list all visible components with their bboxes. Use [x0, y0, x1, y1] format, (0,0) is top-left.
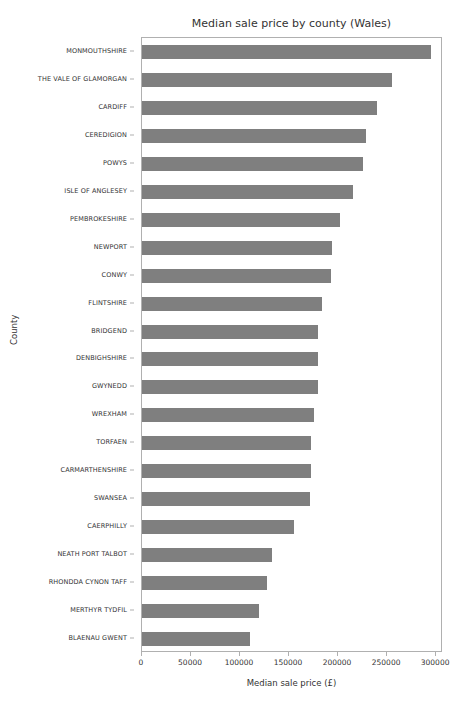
bar[interactable] [142, 576, 267, 590]
y-axis-tick-mark [130, 330, 134, 331]
bar-row[interactable] [142, 269, 441, 283]
y-axis-tick-label: GWYNEDD [92, 382, 127, 390]
bar-row[interactable] [142, 604, 441, 618]
y-axis-tick-mark [130, 498, 134, 499]
x-axis-tick-label: 50000 [178, 658, 202, 667]
y-axis-tick-mark [130, 106, 134, 107]
y-axis-tick-mark [130, 50, 134, 51]
bar-row[interactable] [142, 520, 441, 534]
bar-row[interactable] [142, 45, 441, 59]
bar[interactable] [142, 129, 366, 143]
x-axis-tick-mark [288, 652, 289, 656]
x-axis-tick-mark [386, 652, 387, 656]
bar-row[interactable] [142, 464, 441, 478]
bar[interactable] [142, 325, 318, 339]
x-axis-tick-label: 150000 [274, 658, 303, 667]
y-axis-tick-label: WREXHAM [92, 410, 127, 418]
bar-row[interactable] [142, 241, 441, 255]
bar[interactable] [142, 408, 314, 422]
bar[interactable] [142, 464, 311, 478]
bar-row[interactable] [142, 380, 441, 394]
y-axis-tick-mark [130, 78, 134, 79]
bar[interactable] [142, 548, 272, 562]
bar-row[interactable] [142, 213, 441, 227]
plot-area [141, 37, 442, 652]
bar[interactable] [142, 45, 431, 59]
bar-row[interactable] [142, 548, 441, 562]
y-axis-tick-mark [130, 470, 134, 471]
y-axis-tick-mark [130, 190, 134, 191]
x-axis-tick-mark [337, 652, 338, 656]
bar-row[interactable] [142, 408, 441, 422]
bar-row[interactable] [142, 352, 441, 366]
x-axis-tick-label: 250000 [372, 658, 401, 667]
bar-row[interactable] [142, 325, 441, 339]
bar[interactable] [142, 213, 340, 227]
bar-row[interactable] [142, 297, 441, 311]
y-axis-tick-label: CONWY [102, 271, 127, 279]
y-axis-tick-label: DENBIGHSHIRE [76, 354, 127, 362]
y-axis-tick-label: ISLE OF ANGLESEY [64, 187, 127, 195]
bar[interactable] [142, 241, 332, 255]
y-axis-tick-mark [130, 358, 134, 359]
y-axis-tick-mark [130, 610, 134, 611]
bar[interactable] [142, 157, 363, 171]
bar[interactable] [142, 436, 311, 450]
bar-row[interactable] [142, 185, 441, 199]
y-axis-tick-label: CEREDIGION [85, 131, 127, 139]
bar[interactable] [142, 269, 331, 283]
y-axis-tick-label: MONMOUTHSHIRE [66, 47, 127, 55]
y-axis-tick-mark [130, 442, 134, 443]
bar[interactable] [142, 73, 392, 87]
bar[interactable] [142, 380, 318, 394]
bar[interactable] [142, 101, 377, 115]
bar-row[interactable] [142, 73, 441, 87]
bar-row[interactable] [142, 492, 441, 506]
y-axis-tick-label: TORFAEN [96, 438, 127, 446]
x-axis-title: Median sale price (£) [141, 678, 442, 688]
y-axis-tick-mark [130, 582, 134, 583]
y-axis-labels: MONMOUTHSHIRETHE VALE OF GLAMORGANCARDIF… [0, 37, 134, 652]
bar-row[interactable] [142, 101, 441, 115]
x-axis-tick-mark [435, 652, 436, 656]
bar[interactable] [142, 185, 353, 199]
bar[interactable] [142, 297, 322, 311]
y-axis-tick-label: MERTHYR TYDFIL [70, 606, 127, 614]
y-axis-tick-label: BLAENAU GWENT [68, 634, 127, 642]
y-axis-tick-mark [130, 274, 134, 275]
y-axis-tick-mark [130, 162, 134, 163]
y-axis-tick-mark [130, 414, 134, 415]
x-axis-tick-mark [190, 652, 191, 656]
bar[interactable] [142, 604, 259, 618]
y-axis-tick-label: SWANSEA [94, 494, 127, 502]
y-axis-tick-label: CAERPHILLY [87, 522, 127, 530]
bar-row[interactable] [142, 436, 441, 450]
bar-row[interactable] [142, 157, 441, 171]
chart-figure: Median sale price by county (Wales) Coun… [0, 0, 468, 703]
y-axis-tick-label: RHONDDA CYNON TAFF [49, 578, 127, 586]
bar[interactable] [142, 492, 310, 506]
y-axis-tick-label: BRIDGEND [91, 327, 127, 335]
bar[interactable] [142, 520, 294, 534]
y-axis-tick-mark [130, 134, 134, 135]
y-axis-tick-mark [130, 246, 134, 247]
bar-row[interactable] [142, 129, 441, 143]
bar[interactable] [142, 352, 318, 366]
y-axis-tick-mark [130, 526, 134, 527]
y-axis-tick-mark [130, 218, 134, 219]
y-axis-tick-label: FLINTSHIRE [88, 299, 127, 307]
y-axis-tick-mark [130, 302, 134, 303]
bar-row[interactable] [142, 576, 441, 590]
page-title: Median sale price by county (Wales) [141, 17, 442, 30]
x-axis-tick-mark [239, 652, 240, 656]
y-axis-tick-label: NEWPORT [94, 243, 127, 251]
y-axis-tick-mark [130, 638, 134, 639]
x-axis-tick-label: 0 [139, 658, 144, 667]
y-axis-tick-label: THE VALE OF GLAMORGAN [38, 75, 127, 83]
x-axis-tick-mark [141, 652, 142, 656]
y-axis-tick-label: CARMARTHENSHIRE [61, 466, 127, 474]
y-axis-tick-label: CARDIFF [98, 103, 127, 111]
bar-row[interactable] [142, 632, 441, 646]
x-axis-tick-label: 200000 [323, 658, 352, 667]
bar[interactable] [142, 632, 250, 646]
